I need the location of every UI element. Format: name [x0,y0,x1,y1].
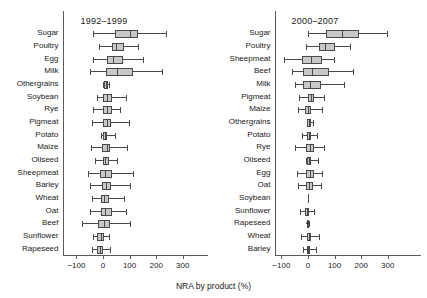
whisker-low [284,59,302,60]
whisker-high [322,59,334,60]
chart-panel-right: 2000–2007 −1000100200300SugarPoultryShee… [213,0,427,298]
whisker-cap-low [91,145,92,151]
x-tick-label: 300 [372,261,404,270]
x-tick [335,256,336,259]
x-tick [388,256,389,259]
box-iqr [302,56,322,64]
whisker-low [295,147,306,148]
whisker-cap-low [302,133,303,139]
whisker-high [112,173,133,174]
whisker-cap-low [90,209,91,215]
category-label: Rye [213,143,271,151]
whisker-low [298,185,306,186]
x-tick-label: 300 [167,261,199,270]
whisker-cap-high [126,209,127,215]
whisker-cap-high [324,145,325,151]
category-label: Sugar [213,29,271,37]
category-label: Sheepmeat [213,55,271,63]
whisker-cap-low [297,171,298,177]
median-line [101,233,102,241]
median-line [309,182,310,190]
whisker-cap-high [162,69,163,75]
boxplot-figure: 1992–1999 −1000100200300SugarPoultryEggM… [0,0,427,298]
whisker-cap-low [97,95,98,101]
category-label: Barley [213,245,271,253]
whisker-cap-high [350,44,351,50]
category-label: Egg [213,169,271,177]
whisker-high [112,211,126,212]
category-label: Rapeseed [213,219,271,227]
category-label: Sheepmeat [0,169,59,177]
y-axis-spine [275,11,276,255]
whisker-high [314,147,324,148]
x-tick [130,256,131,259]
median-line [106,81,107,89]
whisker-high [110,223,130,224]
whisker-cap-low [92,120,93,126]
category-label: Oilseed [0,156,59,164]
whisker-low [90,211,101,212]
category-label: Othergrains [213,118,271,126]
whisker-low [93,33,115,34]
degenerate-marker [308,194,309,203]
whisker-high [107,135,115,136]
whisker-cap-high [321,183,322,189]
plot-area-left: −1000100200300SugarPoultryEggMilkOthergr… [0,0,214,298]
whisker-cap-low [90,183,91,189]
box-iqr [319,43,335,51]
box-iqr [115,30,138,38]
whisker-high [314,173,322,174]
whisker-low [88,173,100,174]
x-tick [156,256,157,259]
whisker-high [359,33,386,34]
category-label: Poultry [0,42,59,50]
median-line [100,246,101,254]
box-iqr [107,56,123,64]
whisker-cap-low [284,57,285,63]
category-label: Potato [213,131,271,139]
whisker-low [92,122,103,123]
whisker-cap-high [316,247,317,253]
whisker-cap-low [93,31,94,37]
category-label: Sunflower [0,232,59,240]
median-line [107,106,108,114]
median-line [307,208,308,216]
whisker-cap-high [109,82,110,88]
whisker-low [93,109,103,110]
whisker-low [90,71,106,72]
median-line [311,56,312,64]
whisker-cap-high [109,234,110,240]
median-line [308,106,309,114]
x-tick [361,256,362,259]
whisker-cap-low [93,57,94,63]
whisker-high [329,71,353,72]
whisker-high [103,249,110,250]
category-label: Rye [0,105,59,113]
whisker-cap-high [324,95,325,101]
whisker-cap-low [93,107,94,113]
whisker-cap-high [322,107,323,113]
whisker-low [82,223,98,224]
median-line [309,132,310,140]
whisker-cap-low [92,247,93,253]
whisker-cap-high [313,120,314,126]
whisker-cap-high [126,95,127,101]
whisker-high [133,71,163,72]
median-line [107,144,108,152]
whisker-high [311,109,322,110]
whisker-high [109,198,124,199]
category-label: Rapeseed [0,245,59,253]
whisker-cap-low [298,183,299,189]
category-label: Soybean [213,194,271,202]
whisker-cap-high [120,107,121,113]
median-line [309,157,310,165]
category-label: Sunflower [213,207,271,215]
whisker-high [138,33,166,34]
median-line [311,94,312,102]
whisker-cap-low [82,221,83,227]
whisker-low [90,185,102,186]
whisker-high [314,97,324,98]
whisker-low [93,59,107,60]
x-axis-spine [63,255,209,256]
x-axis-spine [275,255,422,256]
